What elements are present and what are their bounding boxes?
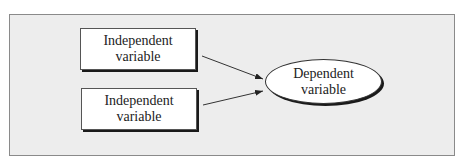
arrow-iv2-to-dv	[203, 91, 263, 105]
independent-variable-box-2: Independent variable	[81, 88, 197, 130]
node-label-line1: Independent	[103, 33, 172, 49]
node-label-line1: Independent	[104, 93, 173, 109]
node-label-line2: variable	[116, 109, 161, 125]
independent-variable-box-1: Independent variable	[80, 28, 196, 70]
node-label-line2: variable	[115, 49, 160, 65]
node-label-line2: variable	[301, 82, 346, 98]
arrow-iv1-to-dv	[202, 56, 263, 79]
node-label-line1: Dependent	[293, 66, 354, 82]
arrows-layer	[0, 0, 461, 161]
dependent-variable-ellipse: Dependent variable	[265, 59, 382, 104]
